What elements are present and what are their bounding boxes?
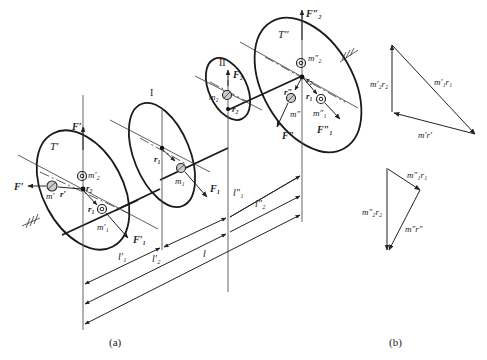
radius-r1-left: r₁: [88, 204, 95, 214]
radius-r-prime: r′: [60, 189, 67, 199]
plane-label-II: II: [219, 57, 226, 68]
force-F-prime: F′: [13, 181, 24, 192]
vec-mr-double: m″r″: [405, 224, 423, 234]
vec-m2r2-prime: m′₂r₂: [370, 79, 388, 89]
dim-l1-double: l″₁: [233, 187, 243, 198]
mass-m1-double: m″₁: [313, 108, 326, 118]
left-disc-label: T′: [50, 140, 59, 152]
force-F2: F₂: [232, 69, 243, 80]
dim-l2-prime: l′₂: [152, 253, 161, 264]
mass-m1: m₁: [175, 176, 185, 186]
force-F-double: F″: [281, 130, 294, 141]
mass-m2: m₂: [209, 92, 219, 102]
dim-l1-prime: l′₁: [118, 251, 126, 262]
radius-r2-left: r₂: [86, 183, 93, 193]
vec-m1r1-prime: m′₁r₁: [434, 77, 452, 87]
mass-m2-prime: m′₂: [88, 170, 100, 180]
right-disc: T″ F″₂ m″₂ r₂ r″ m″ F″ r₁ m″₁ F″₁: [233, 0, 384, 171]
vector-polygon-top: m′₂r₂ m′₁r₁ m′r′: [370, 45, 475, 140]
mass-m-prime: m′: [46, 191, 55, 201]
radius-r1-mid: r₁: [154, 154, 161, 164]
vec-m1r1-double: m″₁r₁: [407, 170, 427, 180]
mass-m1-prime: m′₁: [97, 222, 109, 232]
radius-r2-mid: r₂: [232, 104, 239, 114]
caption-a: (a): [109, 336, 122, 349]
mass-m2-double: m″₂: [308, 53, 321, 63]
radius-r1-right: r₁: [306, 91, 313, 101]
force-F1-prime: F′₁: [132, 234, 146, 245]
middle-disc-1: I r₁ m₁ F₁: [110, 87, 220, 250]
force-F1-double: F″₁: [316, 124, 333, 135]
right-disc-label: T″: [278, 28, 289, 40]
force-F2-prime: F′₂: [71, 121, 85, 132]
radius-r2-right: r₂: [306, 75, 313, 85]
plane-label-I: I: [150, 87, 153, 98]
force-F1: F₁: [209, 183, 220, 194]
force-F2-double: F″₂: [305, 8, 322, 19]
vec-m2r2-double: m″₂r₂: [362, 207, 382, 217]
vector-polygon-bottom: m″₂r₂ m″₁r₁ m″r″: [362, 168, 427, 250]
balancing-diagram: T′ F′₂ m′₂ r₂ F′ m′ r′ r₁ m′₁ F′₁ I: [0, 0, 487, 360]
caption-b: (b): [389, 336, 402, 349]
mass-m-double: m″: [290, 109, 300, 119]
dim-l: l: [203, 248, 206, 259]
dim-l2-double: l″₂: [255, 198, 266, 209]
left-disc: T′ F′₂ m′₂ r₂ F′ m′ r′ r₁ m′₁ F′₁: [13, 95, 158, 330]
vec-mr-prime: m′r′: [418, 130, 433, 140]
bearing-left: [22, 214, 40, 228]
